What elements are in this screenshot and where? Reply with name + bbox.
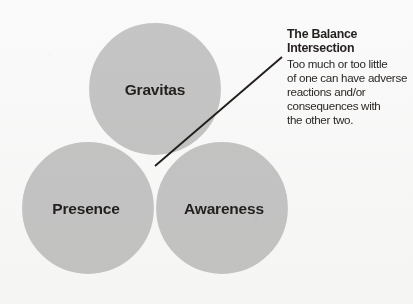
venn-label-gravitas: Gravitas	[125, 81, 185, 98]
venn-label-presence: Presence	[52, 200, 120, 217]
callout-body-line: reactions and/or	[287, 85, 409, 99]
venn-label-awareness: Awareness	[184, 200, 264, 217]
balance-intersection-callout: The Balance Intersection Too much or too…	[287, 27, 409, 127]
callout-body-line: Too much or too little	[287, 57, 409, 71]
venn-diagram-figure: Gravitas Presence Awareness The Balance …	[0, 0, 413, 304]
callout-body-line: the other two.	[287, 113, 409, 127]
callout-body: Too much or too little of one can have a…	[287, 57, 409, 127]
callout-body-line: of one can have adverse	[287, 71, 409, 85]
callout-body-line: consequences with	[287, 99, 409, 113]
callout-title: The Balance Intersection	[287, 27, 409, 56]
venn-circles-group	[21, 22, 289, 275]
